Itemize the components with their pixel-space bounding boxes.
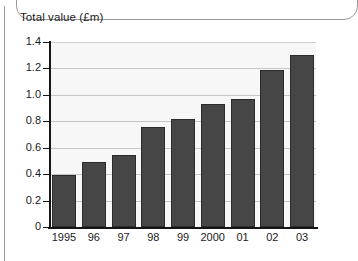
plot-area [50, 42, 316, 227]
chart-title: Total value (£m) [20, 11, 103, 23]
y-tick-mark [43, 68, 49, 69]
y-tick-label: 0.8 [0, 114, 41, 126]
bar-97 [112, 155, 136, 227]
y-tick-label: 1.2 [0, 61, 41, 73]
y-tick-label: 0.4 [0, 167, 41, 179]
y-tick-mark [43, 227, 49, 228]
y-tick-label: 0.6 [0, 141, 41, 153]
bar-96 [82, 162, 106, 227]
bar-98 [141, 127, 165, 227]
x-tick-label-03: 03 [280, 231, 324, 243]
y-tick-mark [43, 42, 49, 43]
bar-series [50, 42, 316, 227]
y-tick-mark [43, 174, 49, 175]
y-tick-mark [43, 95, 49, 96]
y-tick-label: 1.4 [0, 35, 41, 47]
x-axis-line [48, 227, 318, 229]
y-tick-mark [43, 148, 49, 149]
bar-1995 [52, 175, 76, 227]
bar-01 [231, 99, 255, 227]
y-axis-line [49, 41, 51, 229]
bar-2000 [201, 104, 225, 227]
bar-02 [260, 70, 284, 227]
y-tick-label: 1.0 [0, 88, 41, 100]
y-tick-mark [43, 121, 49, 122]
bar-99 [171, 119, 195, 227]
y-tick-mark [43, 201, 49, 202]
y-tick-label: 0 [0, 220, 41, 232]
y-tick-label: 0.2 [0, 194, 41, 206]
bar-03 [290, 55, 314, 227]
